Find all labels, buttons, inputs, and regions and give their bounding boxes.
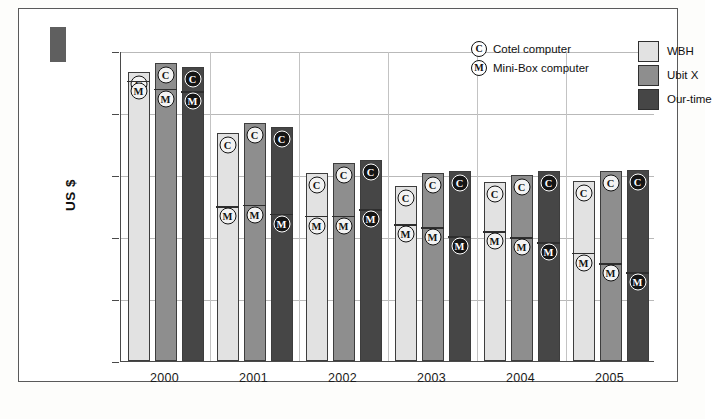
legend-swatch-row: Our-time: [638, 87, 712, 111]
y-tick-mark: [112, 176, 119, 177]
minibox-marker-icon: M: [513, 239, 530, 256]
legend-series-label: WBH: [667, 45, 694, 57]
plot-area: CMCMCMCMCMCMCMCMCMCMCMCMCMCMCMCMCMCM: [120, 52, 654, 362]
bar-ubit-x-2000[interactable]: CM: [155, 63, 177, 361]
bar-wbh-2003[interactable]: CM: [395, 186, 417, 361]
bar-ubit-x-2003[interactable]: CM: [422, 173, 444, 361]
cotel-marker-icon: C: [471, 41, 487, 57]
minibox-marker-icon: M: [486, 233, 503, 250]
x-tick-label: 2001: [209, 371, 299, 385]
bar-group: CMCMCM: [477, 52, 566, 361]
minibox-marker-icon: M: [219, 208, 236, 225]
cotel-marker-icon: C: [335, 166, 352, 183]
minibox-marker-icon: M: [540, 244, 557, 261]
cotel-marker-icon: C: [451, 175, 468, 192]
bar-ubit-x-2005[interactable]: CM: [600, 171, 622, 361]
cotel-marker-icon: C: [629, 174, 646, 191]
minibox-marker-icon: M: [471, 60, 487, 76]
cotel-marker-icon: C: [308, 176, 325, 193]
bar-ubit-x-2002[interactable]: CM: [333, 163, 355, 361]
minibox-marker-icon: M: [273, 215, 290, 232]
y-axis-label: US $: [63, 179, 78, 211]
minibox-marker-icon: M: [629, 274, 646, 291]
corner-decoration: [50, 27, 66, 62]
y-tick-mark: [112, 52, 119, 53]
x-tick-label: 2000: [120, 371, 210, 385]
bar-our-time-2001[interactable]: CM: [271, 127, 293, 361]
legend-marker-column: CCotel computerMMini-Box computer: [471, 39, 641, 77]
legend-marker-row: MMini-Box computer: [471, 58, 641, 77]
cotel-marker-icon: C: [219, 136, 236, 153]
y-tick-mark: [112, 238, 119, 239]
minibox-marker-icon: M: [157, 90, 174, 107]
bar-ubit-x-2001[interactable]: CM: [244, 123, 266, 361]
legend-marker-row: CCotel computer: [471, 39, 641, 58]
minibox-marker-icon: M: [397, 226, 414, 243]
bar-group: CMCMCM: [299, 52, 388, 361]
bar-our-time-2004[interactable]: CM: [538, 171, 560, 361]
cotel-marker-icon: C: [184, 71, 201, 88]
y-tick-mark: [112, 362, 119, 363]
bar-our-time-2002[interactable]: CM: [360, 160, 382, 362]
bar-wbh-2000[interactable]: CM: [128, 72, 150, 361]
cotel-marker-icon: C: [424, 176, 441, 193]
bar-wbh-2001[interactable]: CM: [217, 133, 239, 361]
legend-swatch-row: WBH: [638, 39, 712, 63]
x-tick-label: 2004: [476, 371, 566, 385]
minibox-marker-icon: M: [424, 229, 441, 246]
cotel-marker-icon: C: [246, 126, 263, 143]
minibox-marker-icon: M: [451, 238, 468, 255]
bar-wbh-2004[interactable]: CM: [484, 182, 506, 361]
cotel-marker-icon: C: [362, 163, 379, 180]
chart-figure-frame: US $ 05001000150020002500 20002001200220…: [18, 8, 678, 382]
minibox-marker-icon: M: [184, 93, 201, 110]
bar-our-time-2005[interactable]: CM: [627, 170, 649, 361]
cotel-marker-icon: C: [575, 185, 592, 202]
legend-series-label: Ubit X: [667, 69, 698, 81]
legend-swatch-row: Ubit X: [638, 63, 712, 87]
minibox-marker-icon: M: [308, 217, 325, 234]
cotel-marker-icon: C: [602, 175, 619, 192]
x-tick-label: 2005: [565, 371, 655, 385]
bar-wbh-2002[interactable]: CM: [306, 173, 328, 361]
bar-wbh-2005[interactable]: CM: [573, 181, 595, 361]
minibox-marker-icon: M: [575, 254, 592, 271]
cotel-marker-icon: C: [513, 179, 530, 196]
minibox-marker-icon: M: [602, 265, 619, 282]
minibox-marker-icon: M: [335, 217, 352, 234]
cotel-marker-icon: C: [486, 186, 503, 203]
bar-our-time-2003[interactable]: CM: [449, 171, 471, 361]
minibox-marker-icon: M: [362, 211, 379, 228]
legend-color-swatch: [638, 89, 659, 110]
bar-ubit-x-2004[interactable]: CM: [511, 175, 533, 361]
legend-color-swatch: [638, 65, 659, 86]
cotel-marker-icon: C: [540, 175, 557, 192]
bar-group: CMCMCM: [388, 52, 477, 361]
legend-series-label: Our-time: [667, 93, 712, 105]
y-tick-mark: [112, 300, 119, 301]
x-tick-label: 2003: [387, 371, 477, 385]
legend-marker-label: Mini-Box computer: [493, 62, 589, 74]
legend-swatch-column: WBHUbit XOur-time: [638, 39, 712, 111]
legend-color-swatch: [638, 41, 659, 62]
bar-our-time-2000[interactable]: CM: [182, 67, 204, 361]
x-tick-label: 2002: [298, 371, 388, 385]
minibox-marker-icon: M: [246, 206, 263, 223]
bar-group: CMCMCM: [121, 52, 210, 361]
minibox-marker-icon: M: [130, 82, 147, 99]
cotel-marker-icon: C: [157, 67, 174, 84]
cotel-marker-icon: C: [397, 190, 414, 207]
bar-group: CMCMCM: [210, 52, 299, 361]
y-tick-mark: [112, 114, 119, 115]
cotel-marker-icon: C: [273, 131, 290, 148]
legend-marker-label: Cotel computer: [493, 43, 571, 55]
